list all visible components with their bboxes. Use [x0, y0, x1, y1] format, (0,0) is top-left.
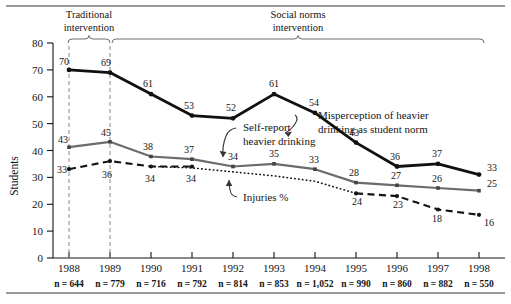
- label-misperception-1996: 36: [390, 151, 400, 162]
- series-injuries-dotted: [151, 167, 356, 194]
- x-tick-1994: 1994: [304, 262, 327, 274]
- x-tick-1995: 1995: [345, 262, 368, 274]
- label-injuries-1989: 36: [102, 169, 112, 180]
- y-axis: [47, 43, 53, 258]
- label-self-report-1991: 37: [184, 144, 194, 155]
- label-injuries-1996: 23: [393, 199, 403, 210]
- label-injuries-1998: 16: [484, 217, 494, 228]
- bracket-social-norms-label-line2: intervention: [273, 22, 324, 33]
- label-self-report-1990: 38: [143, 141, 153, 152]
- callout-self-report-line2: heavier drinking: [243, 135, 316, 147]
- x-tick-1988: 1988: [58, 262, 81, 274]
- label-misperception-1992: 52: [226, 102, 236, 113]
- label-self-report-1994: 33: [309, 154, 319, 165]
- label-injuries-1990: 34: [145, 173, 155, 184]
- x-tick-1989: 1989: [99, 262, 122, 274]
- x-tick-1991: 1991: [181, 262, 203, 274]
- callout-self-report-line1: Self-report: [243, 121, 291, 133]
- callout-misperception: Misperception of heavier drinking as stu…: [285, 109, 429, 137]
- callout-misperception-line1: Misperception of heavier: [318, 109, 429, 121]
- label-misperception-1994: 54: [309, 97, 319, 108]
- y-tick-labels: 80 70 60 50 40 30 20 10 0: [32, 37, 44, 264]
- y-tick-70: 70: [32, 64, 44, 76]
- sample-size-labels: n = 644 n = 779 n = 716 n = 792 n = 814 …: [54, 279, 494, 289]
- bracket-social-norms: [112, 36, 484, 44]
- x-tick-1998: 1998: [468, 262, 491, 274]
- line-chart: 80 70 60 50 40 30 20 10 0 Students: [0, 0, 511, 304]
- x-tick-1997: 1997: [427, 262, 450, 274]
- x-tick-1996: 1996: [386, 262, 409, 274]
- n-1998: n = 550: [464, 279, 494, 289]
- n-1995: n = 990: [341, 279, 371, 289]
- n-1996: n = 860: [382, 279, 412, 289]
- callout-injuries-label: Injuries %: [243, 191, 289, 203]
- x-tick-1993: 1993: [263, 262, 286, 274]
- x-axis: [53, 252, 505, 258]
- label-misperception-1993: 61: [269, 78, 279, 89]
- n-1994: n = 1,052: [297, 279, 334, 289]
- label-misperception-1991: 53: [184, 100, 194, 111]
- bracket-social-norms-label-line1: Social norms: [270, 9, 325, 20]
- label-misperception-1997: 37: [432, 148, 442, 159]
- n-1990: n = 716: [136, 279, 166, 289]
- intervention-divider-lines: [69, 46, 110, 258]
- y-tick-80: 80: [32, 37, 44, 49]
- series-injuries-dashed: [67, 159, 481, 217]
- label-injuries-1991: 34: [186, 173, 196, 184]
- n-1993: n = 853: [259, 279, 289, 289]
- label-self-report-1992: 34: [228, 151, 238, 162]
- n-1988: n = 644: [54, 279, 84, 289]
- label-self-report-1988: 43: [58, 134, 68, 145]
- label-injuries-1997: 18: [432, 213, 442, 224]
- label-injuries-1988: 33: [57, 164, 67, 175]
- y-tick-60: 60: [32, 91, 44, 103]
- figure-container: 80 70 60 50 40 30 20 10 0 Students: [0, 0, 511, 304]
- callout-injuries: Injuries %: [226, 180, 289, 203]
- label-misperception-1988: 70: [59, 56, 69, 67]
- y-tick-30: 30: [32, 171, 44, 183]
- label-self-report-1993: 35: [269, 148, 279, 159]
- n-1989: n = 779: [95, 279, 125, 289]
- y-tick-20: 20: [32, 198, 44, 210]
- n-1991: n = 792: [177, 279, 207, 289]
- label-self-report-1995: 28: [349, 167, 359, 178]
- label-self-report-1997: 26: [432, 173, 442, 184]
- label-self-report-1996: 27: [391, 170, 401, 181]
- n-1992: n = 814: [218, 279, 248, 289]
- y-tick-10: 10: [32, 225, 44, 237]
- label-misperception-1990: 61: [143, 78, 153, 89]
- label-self-report-1989: 45: [101, 127, 111, 138]
- n-1997: n = 882: [423, 279, 453, 289]
- x-tick-1990: 1990: [140, 262, 163, 274]
- y-tick-50: 50: [32, 118, 44, 130]
- bracket-traditional-label-line2: intervention: [64, 22, 115, 33]
- callout-misperception-line2: drinking as student norm: [318, 123, 428, 135]
- label-misperception-1998: 33: [487, 162, 497, 173]
- bracket-traditional: [68, 36, 110, 44]
- label-self-report-1998: 25: [487, 178, 497, 189]
- label-injuries-1995: 24: [352, 196, 362, 207]
- y-axis-title: Students: [8, 156, 20, 196]
- x-tick-labels: 1988 1989 1990 1991 1992 1993 1994 1995 …: [58, 262, 491, 274]
- y-tick-0: 0: [38, 252, 44, 264]
- bracket-traditional-label-line1: Traditional: [66, 9, 112, 20]
- y-tick-40: 40: [32, 145, 44, 157]
- label-misperception-1989: 69: [101, 57, 111, 68]
- x-tick-1992: 1992: [222, 262, 244, 274]
